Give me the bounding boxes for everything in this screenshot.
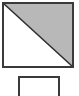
shapes-svg xyxy=(0,0,79,96)
figure-canvas xyxy=(0,0,79,96)
small-rectangle-fill xyxy=(19,77,59,96)
